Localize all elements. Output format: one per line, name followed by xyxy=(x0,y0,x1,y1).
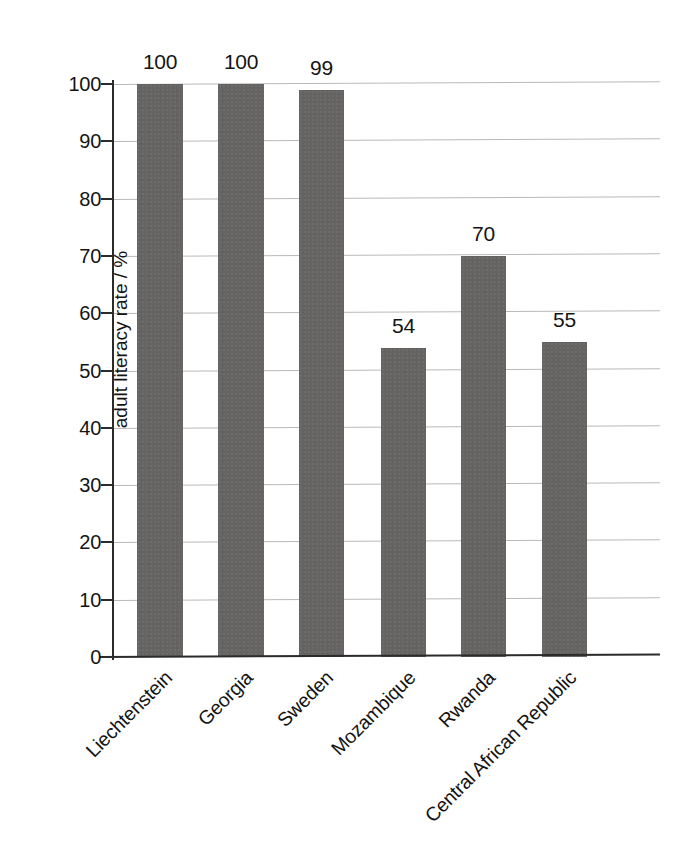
bar-value-label: 100 xyxy=(120,51,200,72)
x-axis-category-label: Central African Republic xyxy=(421,667,580,826)
x-axis-category-label: Liechtenstein xyxy=(82,667,176,761)
y-axis-tick xyxy=(101,83,113,85)
y-axis-tick-label: 10 xyxy=(55,590,101,610)
x-axis-category-label: Sweden xyxy=(274,667,337,730)
bar-value-label: 54 xyxy=(364,315,444,336)
gridline xyxy=(113,139,660,143)
y-axis-tick-label: 40 xyxy=(55,418,101,438)
y-axis-tick-label: 90 xyxy=(55,131,101,151)
y-axis-tick xyxy=(101,140,113,142)
y-axis-tick xyxy=(101,541,113,543)
bar-value-label: 100 xyxy=(201,51,281,72)
y-axis-tick xyxy=(101,484,113,486)
y-axis-tick-label: 30 xyxy=(55,475,101,495)
x-axis-category-label: Georgia xyxy=(194,667,256,729)
gridline xyxy=(113,253,660,257)
bar xyxy=(542,342,587,657)
gridline xyxy=(113,81,660,85)
y-axis-tick-label: 20 xyxy=(55,532,101,552)
plot-area xyxy=(113,84,660,657)
y-axis-title: adult literacy rate / % xyxy=(111,210,130,470)
bar-value-label: 55 xyxy=(525,309,605,330)
bar-value-label: 70 xyxy=(444,223,524,244)
bar xyxy=(299,90,344,657)
bar xyxy=(381,348,426,657)
gridline xyxy=(113,196,660,200)
y-axis-tick xyxy=(101,656,113,658)
y-axis-tick-label: 70 xyxy=(55,246,101,266)
y-axis-tick-label: 50 xyxy=(55,361,101,381)
bar-chart: 1009080706050403020100 adult literacy ra… xyxy=(0,0,685,860)
bar xyxy=(137,84,183,657)
x-axis-category-label: Mozambique xyxy=(327,667,419,759)
y-axis-tick xyxy=(101,198,113,200)
bar xyxy=(461,256,506,657)
y-axis-tick xyxy=(101,599,113,601)
y-axis-tick-label: 80 xyxy=(55,189,101,209)
x-axis-category-label: Rwanda xyxy=(435,667,499,731)
y-axis-tick-label: 0 xyxy=(55,647,101,667)
y-axis-tick-label: 100 xyxy=(55,74,101,94)
bar xyxy=(218,84,264,657)
bar-value-label: 99 xyxy=(282,57,362,78)
y-axis-tick-label: 60 xyxy=(55,303,101,323)
